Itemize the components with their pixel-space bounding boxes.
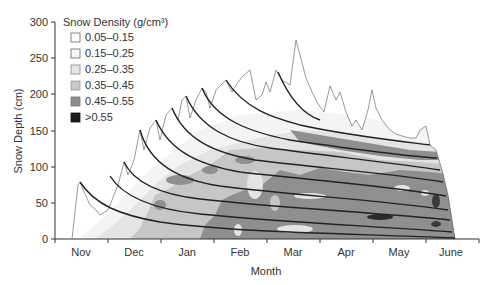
legend-item: 0.15–0.25 xyxy=(71,47,134,59)
y-tick-250: 250 xyxy=(30,52,48,64)
density-regions xyxy=(60,30,460,240)
y-tick-50: 50 xyxy=(36,197,48,209)
y-tick-labels: 300 250 200 150 100 50 0 xyxy=(30,16,48,245)
x-tick-jan: Jan xyxy=(178,246,196,258)
x-tick-may: May xyxy=(389,246,410,258)
x-tick-apr: Apr xyxy=(337,246,354,258)
legend-item: 0.25–0.35 xyxy=(71,63,134,75)
y-axis xyxy=(51,22,55,239)
legend-label: 0.45–0.55 xyxy=(85,95,134,107)
snow-density-chart: 300 250 200 150 100 50 0 Nov Dec Jan Feb… xyxy=(0,0,495,285)
legend: Snow Density (g/cm³) 0.05–0.15 0.15–0.25… xyxy=(63,16,168,123)
legend-swatch xyxy=(71,81,80,90)
legend-swatch xyxy=(71,33,80,42)
legend-swatch xyxy=(71,49,80,58)
x-tick-june: June xyxy=(439,246,463,258)
legend-label: 0.05–0.15 xyxy=(85,31,134,43)
y-axis-title: Snow Depth (cm) xyxy=(12,89,24,174)
y-tick-200: 200 xyxy=(30,88,48,100)
legend-swatch xyxy=(71,113,80,122)
legend-swatch xyxy=(71,65,80,74)
x-tick-dec: Dec xyxy=(124,246,144,258)
legend-item: 0.45–0.55 xyxy=(71,95,134,107)
y-tick-0: 0 xyxy=(42,233,48,245)
y-tick-300: 300 xyxy=(30,16,48,28)
legend-title: Snow Density (g/cm³) xyxy=(63,16,168,28)
legend-item: >0.55 xyxy=(71,111,113,123)
x-tick-mar: Mar xyxy=(284,246,303,258)
legend-label: 0.25–0.35 xyxy=(85,63,134,75)
x-axis-title: Month xyxy=(251,265,282,277)
y-tick-100: 100 xyxy=(30,161,48,173)
legend-swatch xyxy=(71,97,80,106)
y-tick-150: 150 xyxy=(30,125,48,137)
x-tick-labels: Nov Dec Jan Feb Mar Apr May June xyxy=(71,246,463,258)
legend-label: >0.55 xyxy=(85,111,113,123)
legend-label: 0.35–0.45 xyxy=(85,79,134,91)
legend-item: 0.05–0.15 xyxy=(71,31,134,43)
x-axis xyxy=(55,239,479,243)
x-tick-feb: Feb xyxy=(231,246,250,258)
legend-item: 0.35–0.45 xyxy=(71,79,134,91)
legend-label: 0.15–0.25 xyxy=(85,47,134,59)
x-tick-nov: Nov xyxy=(71,246,91,258)
